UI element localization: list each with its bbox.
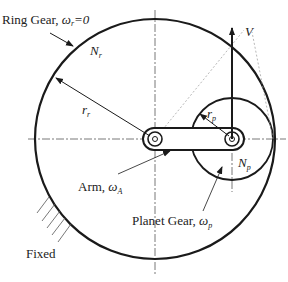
planet-teeth-label: Np	[237, 155, 251, 172]
planet-gear-label: Planet Gear, ωp	[132, 213, 212, 230]
planetary-gear-diagram: Ring Gear, ωr=0 Nr rr V rp Np Arm, ωA Pl…	[0, 0, 288, 282]
fixed-label: Fixed	[26, 246, 56, 261]
ring-teeth-label: Nr	[89, 43, 103, 60]
ring-radius-arrow	[56, 78, 150, 136]
ring-radius-label: rr	[82, 102, 91, 119]
arm-pivot	[148, 132, 162, 146]
planet-radius-label: rp	[207, 106, 216, 123]
velocity-label: V	[245, 24, 255, 39]
ring-gear-label: Ring Gear, ωr=0	[2, 12, 90, 28]
planet-gear-pointer	[203, 167, 222, 211]
arm-label: Arm, ωA	[78, 179, 123, 196]
arm-pointer	[118, 151, 170, 174]
ring-gear-pointer	[50, 33, 73, 46]
